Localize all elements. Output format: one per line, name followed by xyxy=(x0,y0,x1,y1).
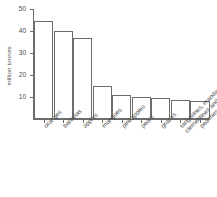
y-axis-tick-label: 40 xyxy=(19,27,26,34)
bar xyxy=(171,100,190,119)
bar xyxy=(151,98,170,119)
y-axis-tick: 50 xyxy=(30,9,34,10)
bar xyxy=(112,95,131,119)
x-axis-tick xyxy=(83,119,84,123)
y-axis-tick-label: 30 xyxy=(19,49,26,56)
x-axis-tick xyxy=(102,119,103,123)
y-axis-label-container: million tonnes xyxy=(2,18,14,114)
x-axis-tick xyxy=(141,119,142,123)
y-axis-label: million tonnes xyxy=(5,46,12,85)
x-axis-tick xyxy=(63,119,64,123)
bar-chart-figure: million tonnes 1020304050 orangesbananas… xyxy=(0,0,217,197)
x-axis-tick xyxy=(122,119,123,123)
bar xyxy=(73,38,92,119)
bar xyxy=(34,21,53,119)
y-axis-tick-label: 10 xyxy=(19,93,26,100)
y-axis-tick-label: 20 xyxy=(19,71,26,78)
y-axis-tick-label: 50 xyxy=(19,5,26,12)
x-axis-tick xyxy=(180,119,181,123)
plot-area: 1020304050 xyxy=(33,10,209,120)
bar xyxy=(132,97,151,119)
x-axis-tick xyxy=(44,119,45,123)
x-axis-tick xyxy=(200,119,201,123)
bar xyxy=(54,31,73,119)
x-axis-tick xyxy=(161,119,162,123)
bar xyxy=(93,86,112,119)
bar xyxy=(190,101,209,119)
